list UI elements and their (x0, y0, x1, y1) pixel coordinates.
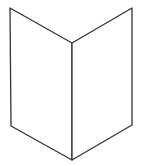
folded-card-icon (0, 0, 142, 166)
right-panel (72, 8, 132, 160)
left-panel (10, 8, 72, 160)
diagram-canvas (0, 0, 142, 166)
